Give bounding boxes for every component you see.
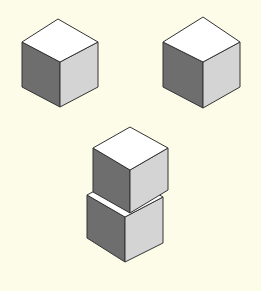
cubes-diagram xyxy=(0,0,261,291)
diagram-canvas xyxy=(0,0,261,291)
